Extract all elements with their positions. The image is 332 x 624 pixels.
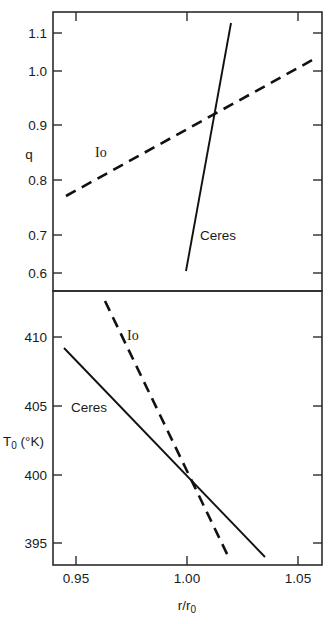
annotation-ceres-top: Ceres xyxy=(200,228,236,243)
series-line-ceres-bottom xyxy=(64,348,265,557)
x-axis-title: r/r0 xyxy=(178,598,197,615)
top-y-tick-label: 0.6 xyxy=(28,266,47,281)
x-tick-label: 1.00 xyxy=(174,571,200,586)
bottom-y-axis-title-unit: (°K) xyxy=(17,434,44,449)
bottom-y-axis-title-main: T xyxy=(3,434,11,449)
x-axis-tick-labels: 0.95 1.00 1.05 xyxy=(63,571,311,586)
x-tick-label: 0.95 xyxy=(63,571,89,586)
series-line-io-bottom xyxy=(105,301,228,556)
x-tick-label: 1.05 xyxy=(285,571,311,586)
bottom-panel-x-ticks xyxy=(76,556,298,565)
series-line-io-top xyxy=(66,58,316,196)
bottom-y-tick-label: 395 xyxy=(24,536,47,551)
top-panel-y-ticks xyxy=(53,33,322,273)
bottom-y-tick-label: 405 xyxy=(24,399,47,414)
x-axis-title-sub: 0 xyxy=(191,604,197,615)
bottom-panel-data xyxy=(64,301,265,557)
annotation-ceres-bottom: Ceres xyxy=(71,400,107,415)
top-y-tick-label: 1.0 xyxy=(28,64,47,79)
bottom-panel-y-axis-title: T0 (°K) xyxy=(3,434,44,451)
annotation-io-top: Io xyxy=(95,145,107,160)
annotation-io-bottom: Io xyxy=(127,328,139,343)
top-y-tick-label: 0.7 xyxy=(28,228,47,243)
top-panel-y-axis-title: q xyxy=(25,147,33,162)
plot-canvas: 1.1 1.0 0.9 0.8 0.7 0.6 q Io Ceres xyxy=(0,0,332,624)
top-panel-frame xyxy=(53,12,322,291)
top-panel-x-ticks xyxy=(76,12,298,21)
top-y-tick-label: 0.8 xyxy=(28,173,47,188)
bottom-panel-y-ticks xyxy=(53,337,322,543)
x-axis-title-main: r/r xyxy=(178,598,191,613)
top-y-tick-label: 0.9 xyxy=(28,118,47,133)
top-y-tick-label: 1.1 xyxy=(28,26,47,41)
bottom-y-tick-label: 410 xyxy=(24,330,47,345)
figure-container: 1.1 1.0 0.9 0.8 0.7 0.6 q Io Ceres xyxy=(0,0,332,624)
bottom-y-tick-label: 400 xyxy=(24,468,47,483)
bottom-panel-frame xyxy=(53,291,322,565)
